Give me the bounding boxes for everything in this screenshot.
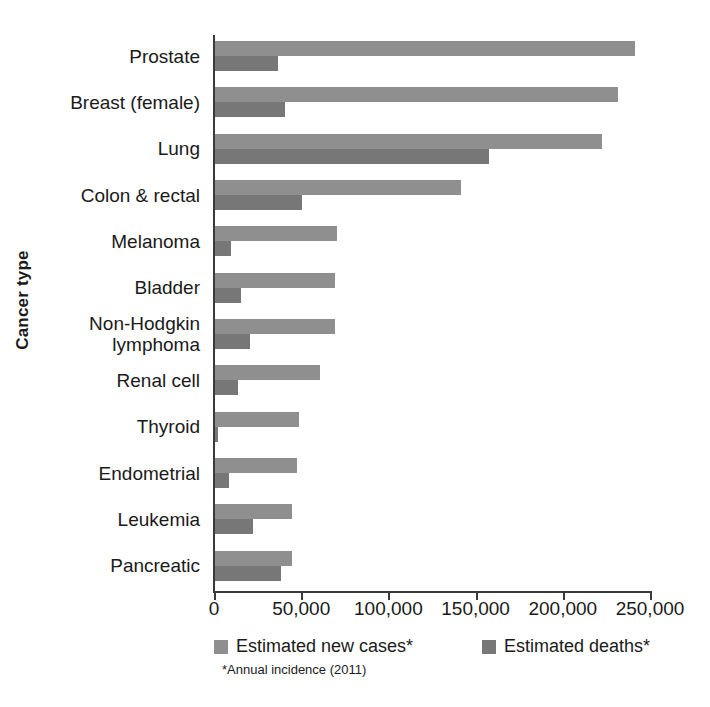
category-label: Breast (female): [10, 92, 200, 113]
category-label: Prostate: [10, 46, 200, 67]
category-label: Endometrial: [10, 463, 200, 484]
legend-swatch-icon: [214, 640, 228, 654]
x-axis-tick-label: 50,000: [272, 598, 330, 620]
bar-deaths: [215, 334, 250, 349]
chart-legend: Estimated new cases*Estimated deaths*: [214, 636, 684, 660]
bar-new-cases: [215, 365, 320, 380]
x-axis-tick-label: 200,000: [528, 598, 597, 620]
bar-deaths: [215, 519, 253, 534]
legend-item: Estimated new cases*: [214, 636, 413, 657]
category-label: Lung: [10, 138, 200, 159]
bar-new-cases: [215, 87, 618, 102]
category-label: Leukemia: [10, 509, 200, 530]
bar-new-cases: [215, 319, 335, 334]
legend-label: Estimated new cases*: [236, 636, 413, 657]
bar-deaths: [215, 566, 281, 581]
bar-deaths: [215, 241, 231, 256]
x-axis-tick-label: 250,000: [616, 598, 685, 620]
x-axis-tick-label: 0: [209, 598, 220, 620]
category-label: Non-Hodgkin lymphoma: [10, 313, 200, 355]
category-label-group: ProstateBreast (female)LungColon & recta…: [20, 35, 208, 591]
chart-footnote: *Annual incidence (2011): [222, 662, 366, 677]
x-axis-tick-label: 150,000: [441, 598, 510, 620]
bar-new-cases: [215, 458, 297, 473]
bar-new-cases: [215, 226, 337, 241]
bar-deaths: [215, 473, 229, 488]
category-label: Pancreatic: [10, 555, 200, 576]
bar-deaths: [215, 427, 218, 442]
category-label: Colon & rectal: [10, 185, 200, 206]
bar-deaths: [215, 102, 285, 117]
bar-new-cases: [215, 180, 461, 195]
bar-new-cases: [215, 134, 602, 149]
category-label: Bladder: [10, 277, 200, 298]
bar-deaths: [215, 380, 238, 395]
bar-deaths: [215, 288, 241, 303]
x-axis-tick-label-group: 050,000100,000150,000200,000250,000: [0, 598, 710, 624]
cancer-statistics-bar-chart: Cancer type ProstateBreast (female)LungC…: [0, 0, 710, 707]
bar-deaths: [215, 149, 489, 164]
legend-swatch-icon: [482, 640, 496, 654]
category-label: Thyroid: [10, 416, 200, 437]
bar-new-cases: [215, 273, 335, 288]
bar-deaths: [215, 195, 302, 210]
legend-item: Estimated deaths*: [482, 636, 650, 657]
bar-new-cases: [215, 412, 299, 427]
bar-new-cases: [215, 551, 292, 566]
plot-area: [214, 35, 650, 591]
category-label: Renal cell: [10, 370, 200, 391]
bar-deaths: [215, 56, 278, 71]
legend-label: Estimated deaths*: [504, 636, 650, 657]
bar-new-cases: [215, 41, 635, 56]
x-axis-tick-label: 100,000: [354, 598, 423, 620]
bar-new-cases: [215, 504, 292, 519]
category-label: Melanoma: [10, 231, 200, 252]
